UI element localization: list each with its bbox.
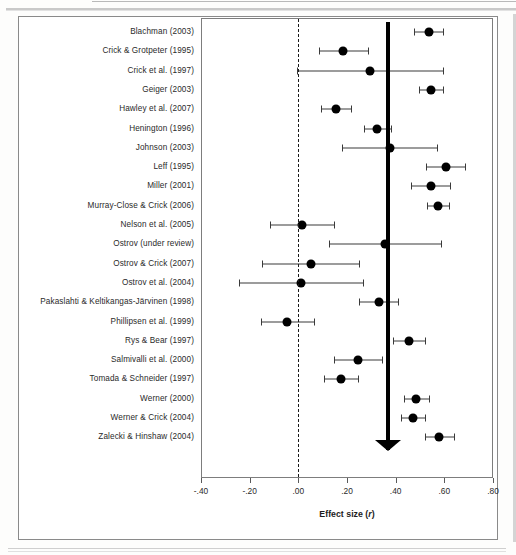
study-label: Pakaslahti & Keltikangas-Järvinen (1998) — [40, 297, 194, 307]
x-axis-tick — [444, 478, 445, 483]
x-axis-tick-label: .80 — [487, 486, 499, 496]
study-label: Ostrov et al. (2004) — [122, 278, 194, 288]
study-label: Nelson et al. (2005) — [121, 220, 194, 230]
plot-axes-frame — [201, 18, 493, 478]
study-label: Rys & Bear (1997) — [125, 336, 194, 346]
axis-title-close-paren: ) — [372, 509, 375, 519]
x-axis-tick — [347, 478, 348, 483]
scan-artifact-line-top — [92, 1, 516, 2]
study-label: Henington (1996) — [129, 124, 194, 134]
x-axis-tick-label: .40 — [390, 486, 402, 496]
x-axis-tick-label: -.20 — [242, 486, 256, 496]
study-label: Crick & Grotpeter (1995) — [102, 46, 194, 56]
study-label: Phillipsen et al. (1999) — [111, 317, 194, 327]
x-axis-tick — [250, 478, 251, 483]
page-bottom-edge-2 — [8, 551, 506, 552]
study-label-column: Blachman (2003)Crick & Grotpeter (1995)C… — [20, 18, 198, 478]
x-axis-tick-label: .60 — [439, 486, 451, 496]
study-label: Geiger (2003) — [142, 85, 194, 95]
summary-diamond — [375, 440, 401, 451]
study-label: Ostrov & Crick (2007) — [113, 259, 194, 269]
study-label: Leff (1995) — [153, 162, 194, 172]
x-axis-tick-label: .00 — [293, 486, 305, 496]
x-axis-tick — [493, 478, 494, 483]
figure-page: Blachman (2003)Crick & Grotpeter (1995)C… — [0, 0, 516, 555]
study-label: Zalecki & Hinshaw (2004) — [98, 432, 194, 442]
study-label: Salmivalli et al. (2000) — [111, 355, 194, 365]
pooled-effect-line — [386, 22, 390, 450]
study-label: Hawley et al. (2007) — [119, 104, 194, 114]
study-label: Blachman (2003) — [130, 27, 194, 37]
x-axis-tick-label: -.40 — [194, 486, 208, 496]
study-label: Werner (2000) — [140, 394, 194, 404]
x-axis-tick — [201, 478, 202, 483]
zero-reference-line — [298, 19, 299, 477]
study-label: Ostrov (under review) — [113, 239, 194, 249]
study-label: Murray-Close & Crick (2006) — [88, 201, 194, 211]
study-label: Crick et al. (1997) — [127, 66, 194, 76]
study-label: Tomada & Schneider (1997) — [90, 374, 194, 384]
page-bottom-edge — [8, 548, 506, 549]
axis-title-text: Effect size ( — [319, 509, 368, 519]
x-axis-tick — [396, 478, 397, 483]
scan-artifact-line-upper-2 — [6, 10, 516, 11]
study-label: Johnson (2003) — [136, 143, 194, 153]
x-axis-title: Effect size (r) — [201, 509, 493, 519]
study-label: Werner & Crick (2004) — [111, 413, 194, 423]
study-label: Miller (2001) — [147, 181, 194, 191]
x-axis-tick-label: .20 — [341, 486, 353, 496]
x-axis-tick — [298, 478, 299, 483]
